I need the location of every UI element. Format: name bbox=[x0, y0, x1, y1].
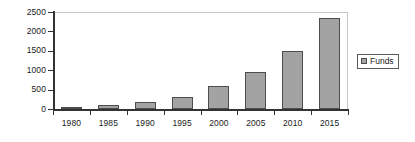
x-axis-tick bbox=[90, 110, 91, 115]
x-axis-tick bbox=[348, 110, 349, 115]
x-axis-tick bbox=[274, 110, 275, 115]
bar[interactable] bbox=[282, 51, 303, 109]
legend-swatch-icon bbox=[361, 58, 367, 64]
y-axis-tick bbox=[48, 51, 54, 52]
x-axis-tick bbox=[127, 110, 128, 115]
bar[interactable] bbox=[98, 105, 119, 109]
bar-chart: 05001000150020002500 1980198519901995200… bbox=[0, 0, 415, 142]
y-axis-tick-label: 2000 bbox=[0, 27, 46, 36]
y-axis-tick-label: 2500 bbox=[0, 8, 46, 17]
y-axis-tick-label: 1500 bbox=[0, 46, 46, 55]
x-axis-tick bbox=[311, 110, 312, 115]
x-axis-tick-label: 1995 bbox=[162, 118, 202, 128]
chart-legend[interactable]: Funds bbox=[357, 54, 399, 69]
y-axis-tick-label-wrap: 1500 bbox=[0, 46, 46, 55]
legend-label-funds: Funds bbox=[370, 57, 394, 66]
bar[interactable] bbox=[245, 72, 266, 109]
x-axis-tick-label: 1985 bbox=[88, 118, 128, 128]
y-axis-tick-label-wrap: 1000 bbox=[0, 66, 46, 75]
x-axis-tick bbox=[53, 110, 54, 115]
y-axis-tick bbox=[48, 70, 54, 71]
x-axis-tick bbox=[201, 110, 202, 115]
y-axis-tick bbox=[48, 12, 54, 13]
y-axis-tick bbox=[48, 90, 54, 91]
y-axis-tick-label-wrap: 0 bbox=[0, 105, 46, 114]
x-axis-tick bbox=[164, 110, 165, 115]
bar[interactable] bbox=[61, 107, 82, 109]
y-axis-tick-label: 500 bbox=[0, 85, 46, 94]
x-axis-tick-label: 2015 bbox=[310, 118, 350, 128]
x-axis-tick-label: 2010 bbox=[273, 118, 313, 128]
bar[interactable] bbox=[208, 86, 229, 109]
y-axis-tick-label: 1000 bbox=[0, 66, 46, 75]
bar[interactable] bbox=[135, 102, 156, 109]
y-axis-line bbox=[53, 11, 55, 111]
bar[interactable] bbox=[172, 97, 193, 109]
x-axis-tick-label: 1990 bbox=[125, 118, 165, 128]
y-axis-tick bbox=[48, 31, 54, 32]
x-axis-tick-label: 2000 bbox=[199, 118, 239, 128]
y-axis-tick-label-wrap: 2000 bbox=[0, 27, 46, 36]
y-axis-tick-label-wrap: 2500 bbox=[0, 8, 46, 17]
y-axis-tick-label-wrap: 500 bbox=[0, 85, 46, 94]
x-axis-tick bbox=[237, 110, 238, 115]
x-axis-tick-label: 1980 bbox=[51, 118, 91, 128]
plot-area-frame bbox=[53, 12, 348, 110]
bar[interactable] bbox=[319, 18, 340, 109]
y-axis-tick-label: 0 bbox=[0, 105, 46, 114]
x-axis-tick-label: 2005 bbox=[236, 118, 276, 128]
